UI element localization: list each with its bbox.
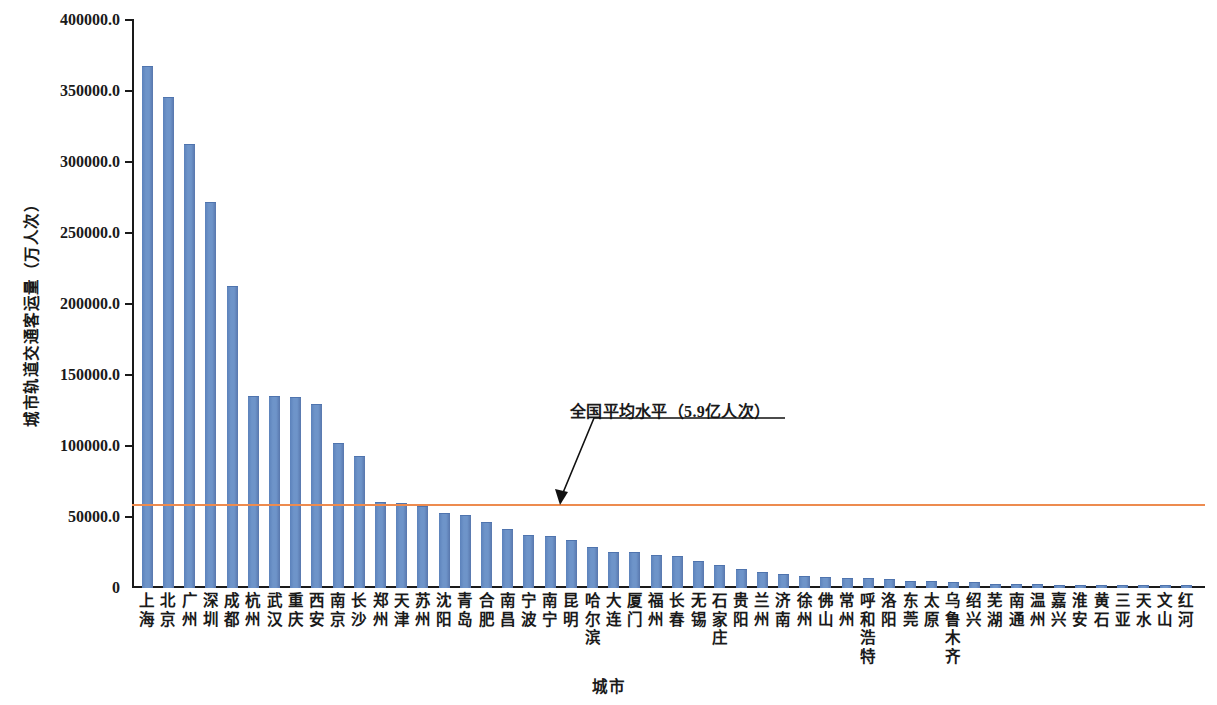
bar bbox=[842, 578, 853, 588]
bar-chart: 城市轨道交通客运量（万人次） 400000.0350000.0300000.02… bbox=[0, 0, 1217, 705]
x-axis-tick-label: 太 原 bbox=[922, 592, 942, 629]
bar bbox=[184, 144, 195, 588]
x-axis-tick-label: 武 汉 bbox=[265, 592, 285, 629]
y-axis-tick-label: 0 bbox=[10, 579, 120, 597]
bar bbox=[926, 581, 937, 588]
x-axis-tick-label: 石 家 庄 bbox=[710, 592, 730, 648]
x-axis-tick-label: 南 京 bbox=[328, 592, 348, 629]
bar bbox=[1011, 584, 1022, 588]
bar bbox=[651, 555, 662, 588]
bar bbox=[587, 547, 598, 588]
x-axis-tick-label: 天 津 bbox=[392, 592, 412, 629]
y-axis-tick-label: 100000.0 bbox=[10, 437, 120, 455]
bar bbox=[142, 66, 153, 588]
bar bbox=[205, 202, 216, 588]
average-reference-line bbox=[132, 504, 1205, 506]
x-axis-tick-label: 成 都 bbox=[222, 592, 242, 629]
x-axis-tick-label: 无 锡 bbox=[689, 592, 709, 629]
bar bbox=[375, 502, 386, 588]
x-axis-tick-label: 芜 湖 bbox=[985, 592, 1005, 629]
x-axis-tick-label: 哈 尔 滨 bbox=[583, 592, 603, 648]
bar bbox=[1117, 585, 1128, 588]
x-axis-tick-label: 南 宁 bbox=[540, 592, 560, 629]
x-axis-tick-label: 呼 和 浩 特 bbox=[858, 592, 878, 666]
plot-area bbox=[132, 20, 1205, 588]
x-axis-tick-label: 南 昌 bbox=[498, 592, 518, 629]
bar bbox=[227, 286, 238, 588]
y-axis-tick-label: 50000.0 bbox=[10, 508, 120, 526]
bar bbox=[969, 582, 980, 588]
y-axis-tick-label: 150000.0 bbox=[10, 366, 120, 384]
bar bbox=[417, 506, 428, 588]
x-axis-tick-label: 青 岛 bbox=[455, 592, 475, 629]
x-axis-tick-label: 昆 明 bbox=[561, 592, 581, 629]
x-axis-tick-label: 黄 石 bbox=[1092, 592, 1112, 629]
bar bbox=[1054, 585, 1065, 588]
bar bbox=[693, 561, 704, 588]
bar bbox=[333, 443, 344, 588]
bar bbox=[629, 552, 640, 589]
bar bbox=[608, 552, 619, 588]
bar bbox=[820, 577, 831, 588]
x-axis-tick-label: 北 京 bbox=[158, 592, 178, 629]
x-axis-tick-label: 乌 鲁 木 齐 bbox=[943, 592, 963, 666]
x-axis-tick-label: 长 沙 bbox=[349, 592, 369, 629]
x-axis-tick-label: 天 水 bbox=[1134, 592, 1154, 629]
x-axis-tick-label: 南 通 bbox=[1007, 592, 1027, 629]
bar bbox=[523, 535, 534, 588]
bar bbox=[714, 565, 725, 588]
bar bbox=[1160, 585, 1171, 588]
x-axis-tick-label: 西 安 bbox=[307, 592, 327, 629]
bar bbox=[1032, 584, 1043, 588]
x-axis-tick-label: 广 州 bbox=[180, 592, 200, 629]
x-axis-tick-label: 合 肥 bbox=[477, 592, 497, 629]
x-axis-tick-label: 长 春 bbox=[667, 592, 687, 629]
x-axis-tick-label: 沈 阳 bbox=[434, 592, 454, 629]
bar bbox=[948, 582, 959, 588]
bar bbox=[439, 513, 450, 588]
y-axis-tick-labels: 400000.0350000.0300000.0250000.0200000.0… bbox=[10, 0, 120, 705]
bar bbox=[460, 515, 471, 588]
y-axis-tick-label: 250000.0 bbox=[10, 224, 120, 242]
x-axis-tick-label: 三 亚 bbox=[1113, 592, 1133, 629]
bar bbox=[502, 529, 513, 588]
x-axis-tick-label: 温 州 bbox=[1028, 592, 1048, 629]
y-axis-tick-label: 200000.0 bbox=[10, 295, 120, 313]
bar bbox=[757, 572, 768, 588]
bar bbox=[799, 576, 810, 588]
bar bbox=[269, 396, 280, 588]
x-axis-tick-label: 重 庆 bbox=[286, 592, 306, 629]
x-axis-tick-label: 宁 波 bbox=[519, 592, 539, 629]
x-axis-tick-label: 贵 阳 bbox=[731, 592, 751, 629]
x-axis-tick-label: 郑 州 bbox=[371, 592, 391, 629]
bar bbox=[990, 584, 1001, 588]
average-annotation-label: 全国平均水平（5.9亿人次） bbox=[570, 398, 770, 422]
x-axis-tick-label: 东 莞 bbox=[901, 592, 921, 629]
bar bbox=[566, 540, 577, 588]
x-axis-tick-label: 淮 安 bbox=[1070, 592, 1090, 629]
bar bbox=[354, 456, 365, 588]
x-axis-tick-label: 厦 门 bbox=[625, 592, 645, 629]
bar bbox=[1096, 585, 1107, 588]
x-axis-tick-label: 红 河 bbox=[1176, 592, 1196, 629]
x-axis-title: 城市 bbox=[0, 674, 1217, 696]
bar bbox=[672, 556, 683, 588]
x-axis-tick-label: 杭 州 bbox=[243, 592, 263, 629]
x-axis-tick-label: 济 南 bbox=[773, 592, 793, 629]
x-axis-tick-label: 洛 阳 bbox=[879, 592, 899, 629]
x-axis-tick-label: 常 州 bbox=[837, 592, 857, 629]
bar bbox=[736, 569, 747, 588]
bar bbox=[311, 404, 322, 588]
bar bbox=[778, 574, 789, 588]
bar bbox=[545, 536, 556, 588]
y-axis-tick-label: 300000.0 bbox=[10, 153, 120, 171]
x-axis-tick-label: 上 海 bbox=[137, 592, 157, 629]
x-axis-tick-label: 福 州 bbox=[646, 592, 666, 629]
bar bbox=[248, 396, 259, 588]
bar bbox=[905, 581, 916, 588]
x-axis-tick-label: 佛 山 bbox=[816, 592, 836, 629]
bar-series bbox=[132, 20, 1205, 588]
bar bbox=[1075, 585, 1086, 588]
bar bbox=[884, 579, 895, 588]
bar bbox=[481, 522, 492, 588]
